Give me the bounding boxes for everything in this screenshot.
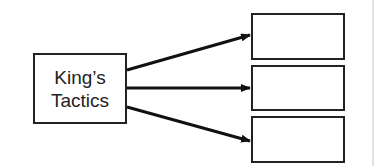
right-edge-divider: [372, 0, 374, 166]
source-label-line1: King’s: [54, 66, 105, 89]
target-box-bottom: [251, 116, 345, 163]
target-box-top: [251, 13, 345, 60]
source-box-kings-tactics: King’s Tactics: [33, 53, 127, 124]
source-label-line2: Tactics: [51, 89, 109, 112]
target-box-middle: [251, 65, 345, 111]
diagram-canvas: King’s Tactics: [0, 0, 376, 166]
arrow-to-bottom-box: [127, 107, 250, 141]
arrow-to-top-box: [127, 35, 250, 70]
